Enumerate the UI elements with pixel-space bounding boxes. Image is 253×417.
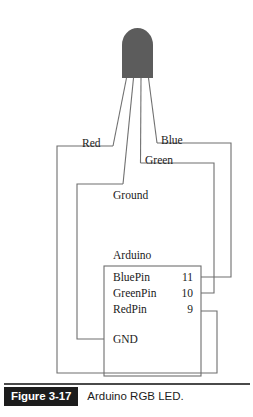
figure-container: Red Blue Green Ground Arduino BluePin 11… [0,0,253,417]
led-leg-blue [149,78,158,143]
pin-number-redpin: 9 [187,303,193,315]
label-arduino: Arduino [113,249,152,261]
led-legs [113,78,157,184]
pin-list: BluePin 11 GreenPin 10 RedPin 9 [113,271,193,315]
pin-label-greenpin: GreenPin [113,287,157,299]
led-leg-green [141,78,142,163]
caption-row: Figure 3-17 Arduino RGB LED. [4,387,184,406]
led-body-icon [122,28,153,78]
pin-number-bluepin: 11 [182,271,193,283]
label-ground: Ground [113,189,148,201]
pin-label-gnd: GND [113,333,138,345]
figure-caption-text: Arduino RGB LED. [78,387,184,406]
label-red: Red [82,137,101,149]
pin-label-redpin: RedPin [113,303,147,315]
pin-number-greenpin: 10 [182,287,194,299]
label-blue: Blue [161,134,183,146]
caption-divider [4,383,250,385]
led-leg-red [113,78,127,146]
wire-green [141,163,215,293]
figure-caption: Figure 3-17 Arduino RGB LED. [0,383,253,417]
wiring-diagram: Red Blue Green Ground Arduino BluePin 11… [0,0,253,417]
wire-ground [77,184,123,339]
pin-label-bluepin: BluePin [113,271,150,283]
figure-number-badge: Figure 3-17 [4,387,78,406]
label-green: Green [145,154,173,166]
led-leg-ground [123,78,134,184]
